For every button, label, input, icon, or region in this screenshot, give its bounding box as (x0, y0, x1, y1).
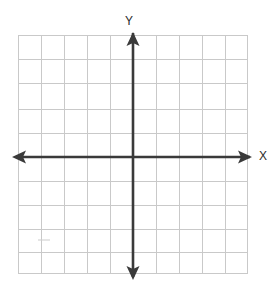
y-axis-label: Y (122, 15, 136, 27)
coordinate-plane-figure: Y X (0, 0, 275, 289)
coordinate-plane-svg (0, 0, 275, 289)
x-axis-label: X (256, 150, 270, 162)
